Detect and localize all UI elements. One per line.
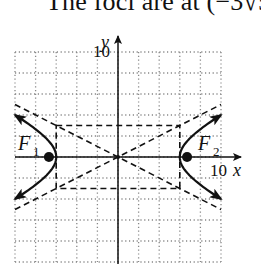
svg-text:2: 2 xyxy=(213,144,220,159)
x-axis-label: x xyxy=(232,160,241,180)
focus-point xyxy=(44,152,54,162)
svg-text:1: 1 xyxy=(33,144,40,159)
svg-text:F: F xyxy=(17,132,31,154)
svg-text:F: F xyxy=(197,132,211,154)
x-tick-label: 10 xyxy=(210,161,227,180)
y-tick-label: 10 xyxy=(93,42,110,61)
focus-point xyxy=(182,152,192,162)
hyperbola-graph: y 10 10 x F 1 F 2 xyxy=(0,0,261,277)
